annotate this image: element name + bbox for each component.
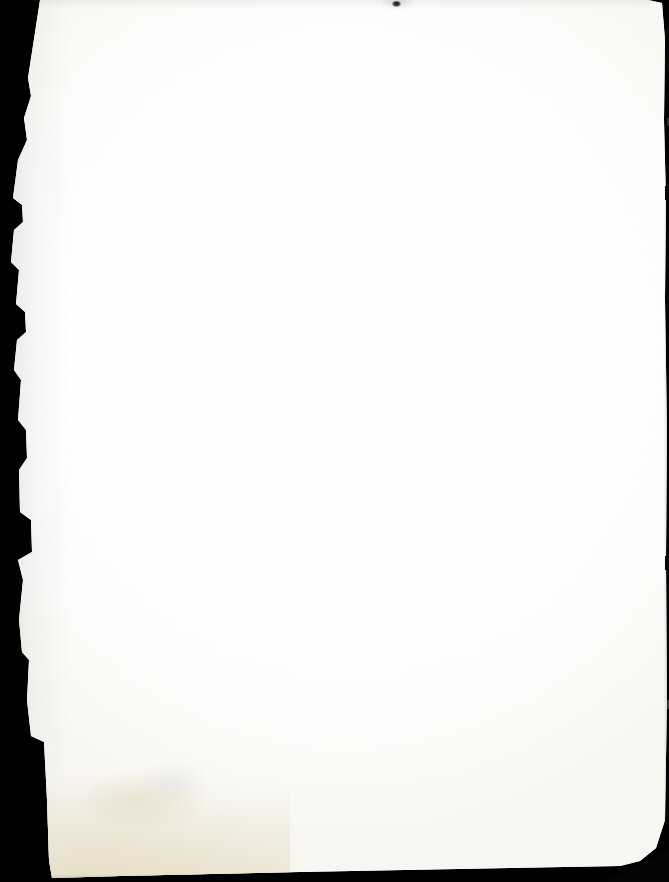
scanned-page	[0, 0, 669, 882]
page-content-area	[62, 40, 639, 842]
paper-sheet	[0, 0, 669, 882]
top-edge-shadow	[30, 0, 650, 12]
